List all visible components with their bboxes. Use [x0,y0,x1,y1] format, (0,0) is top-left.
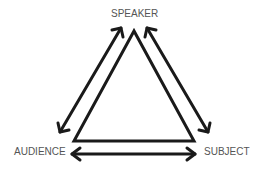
arrow-speaker-audience [58,28,123,132]
arrow-speaker-subject [145,28,210,132]
subject-label: SUBJECT [204,147,250,157]
audience-label: AUDIENCE [14,147,66,157]
speaker-label: SPEAKER [111,9,158,19]
central-triangle [74,31,194,141]
arrow-audience-subject [72,148,195,160]
